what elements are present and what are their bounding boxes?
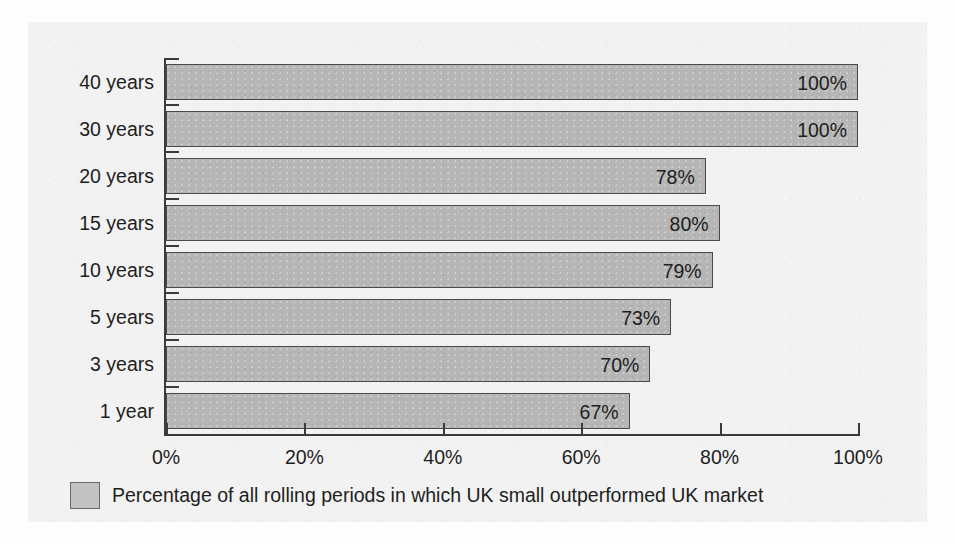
bar[interactable]: 67% [166, 393, 630, 429]
bar[interactable]: 70% [166, 346, 650, 382]
category-tick [166, 245, 179, 247]
value-axis-tick [858, 423, 860, 434]
chart-legend: Percentage of all rolling periods in whi… [70, 482, 763, 509]
bar-value-label: 80% [670, 206, 709, 242]
bar[interactable]: 79% [166, 252, 713, 288]
category-axis-label: 20 years [4, 158, 154, 194]
bar[interactable]: 80% [166, 205, 720, 241]
category-axis-label: 1 year [4, 393, 154, 429]
category-tick [166, 339, 179, 341]
category-tick [166, 292, 179, 294]
category-tick [166, 104, 179, 106]
value-axis-tick [166, 423, 168, 434]
category-axis-label: 30 years [4, 111, 154, 147]
category-axis-label: 10 years [4, 252, 154, 288]
legend-label: Percentage of all rolling periods in whi… [112, 484, 763, 507]
bar-value-label: 100% [797, 65, 847, 101]
value-axis-line [164, 434, 860, 436]
category-axis-label: 5 years [4, 299, 154, 335]
value-axis-label: 20% [285, 446, 324, 469]
value-axis-label: 60% [562, 446, 601, 469]
category-tick [166, 151, 179, 153]
bar[interactable]: 78% [166, 158, 706, 194]
value-axis-label: 0% [152, 446, 180, 469]
bar-row: 79% [166, 252, 858, 288]
category-axis-labels: 40 years30 years20 years15 years10 years… [0, 58, 154, 434]
legend-swatch-grey [70, 482, 100, 509]
value-axis-label: 100% [833, 446, 883, 469]
bar-value-label: 67% [580, 394, 619, 430]
bar-row: 78% [166, 158, 858, 194]
bar-value-label: 79% [663, 253, 702, 289]
value-axis-tick [304, 423, 306, 434]
bar[interactable]: 100% [166, 111, 858, 147]
value-axis-label: 40% [423, 446, 462, 469]
bar-row: 73% [166, 299, 858, 335]
category-tick [166, 198, 179, 200]
bar[interactable]: 73% [166, 299, 671, 335]
plot-area: 100%100%78%80%79%73%70%67% [166, 58, 858, 434]
bar-row: 67% [166, 393, 858, 429]
category-axis-label: 3 years [4, 346, 154, 382]
value-axis-label: 80% [700, 446, 739, 469]
bar-row: 100% [166, 111, 858, 147]
value-axis-tick [581, 423, 583, 434]
category-axis-label: 15 years [4, 205, 154, 241]
bar-value-label: 73% [621, 300, 660, 336]
bar-value-label: 78% [656, 159, 695, 195]
bar[interactable]: 100% [166, 64, 858, 100]
bar-value-label: 100% [797, 112, 847, 148]
value-axis-tick [720, 423, 722, 434]
category-tick [166, 386, 179, 388]
category-axis-label: 40 years [4, 64, 154, 100]
bar-value-label: 70% [600, 347, 639, 383]
category-tick [166, 58, 179, 60]
bar-row: 80% [166, 205, 858, 241]
chart-figure: 40 years30 years20 years15 years10 years… [0, 0, 955, 544]
bar-row: 100% [166, 64, 858, 100]
value-axis-tick [443, 423, 445, 434]
bar-row: 70% [166, 346, 858, 382]
